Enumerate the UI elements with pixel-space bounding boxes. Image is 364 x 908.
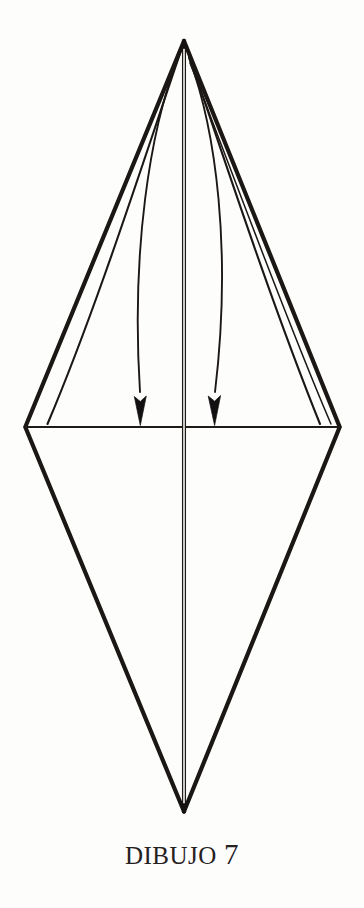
figure-page: DIBUJO 7 bbox=[0, 0, 364, 908]
origami-diagram bbox=[0, 0, 364, 908]
figure-caption: DIBUJO 7 bbox=[0, 838, 364, 871]
caption-word: DIBUJO bbox=[125, 842, 217, 869]
caption-space bbox=[217, 840, 224, 870]
caption-number: 7 bbox=[224, 838, 239, 870]
